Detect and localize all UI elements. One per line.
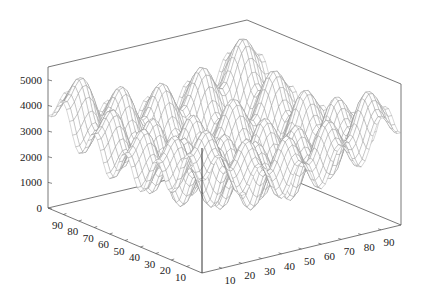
y-tick-label: 60	[98, 238, 110, 250]
z-tick-label: 2000	[20, 151, 43, 163]
x-tick-label: 50	[304, 255, 316, 267]
y-tick-mark	[63, 214, 66, 215]
x-tick-mark	[318, 243, 321, 244]
z-tick-label: 0	[37, 202, 43, 214]
y-tick-label: 10	[175, 271, 187, 283]
y-tick-mark	[110, 233, 113, 234]
z-tick-label: 1000	[20, 176, 43, 188]
y-axis: 908070605040302010	[52, 214, 190, 283]
mesh-surface	[48, 39, 401, 210]
surface-plot: 010002000300040005000 908070605040302010…	[0, 0, 442, 299]
x-tick-mark	[219, 267, 222, 268]
z-tick-mark	[48, 208, 52, 209]
x-tick-label: 40	[284, 260, 296, 272]
y-tick-mark	[156, 253, 159, 254]
y-tick-mark	[187, 266, 190, 267]
y-tick-mark	[125, 240, 128, 241]
z-tick-label: 5000	[20, 74, 43, 86]
z-tick-label: 4000	[20, 99, 43, 111]
x-tick-label: 90	[384, 236, 396, 248]
x-tick-label: 70	[344, 245, 356, 257]
x-tick-label: 80	[364, 241, 376, 253]
x-tick-mark	[239, 262, 242, 263]
y-tick-label: 80	[67, 225, 79, 237]
y-tick-mark	[171, 259, 174, 260]
y-tick-label: 30	[144, 258, 156, 270]
y-tick-mark	[94, 227, 97, 228]
x-tick-label: 30	[264, 265, 276, 277]
y-tick-label: 70	[83, 232, 95, 244]
z-tick-mark	[48, 182, 52, 183]
z-tick-mark	[48, 105, 52, 106]
x-tick-mark	[378, 229, 381, 230]
z-tick-mark	[48, 157, 52, 158]
z-tick-mark	[48, 80, 52, 81]
z-tick-mark	[48, 131, 52, 132]
y-tick-label: 90	[52, 219, 64, 231]
y-tick-mark	[79, 220, 82, 221]
y-tick-label: 20	[160, 264, 172, 276]
x-tick-mark	[338, 238, 341, 239]
y-tick-label: 40	[129, 251, 141, 263]
z-tick-label: 3000	[20, 125, 43, 137]
z-axis: 010002000300040005000	[20, 74, 52, 214]
x-tick-label: 20	[244, 269, 256, 281]
y-tick-label: 50	[114, 245, 126, 257]
x-tick-mark	[279, 253, 282, 254]
y-tick-mark	[140, 246, 143, 247]
x-tick-label: 10	[224, 274, 236, 286]
x-tick-mark	[299, 248, 302, 249]
x-tick-mark	[358, 234, 361, 235]
x-tick-mark	[259, 258, 262, 259]
x-axis: 102030405060708090	[219, 229, 395, 286]
x-tick-label: 60	[324, 250, 336, 262]
